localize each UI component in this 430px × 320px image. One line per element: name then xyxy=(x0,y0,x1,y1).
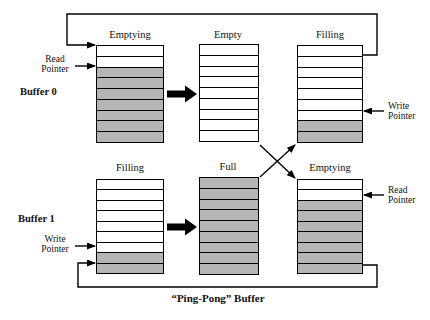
buffer-row xyxy=(97,263,163,273)
buffer-row xyxy=(298,56,362,67)
buffer-row xyxy=(200,66,258,77)
buffer-row xyxy=(200,87,258,98)
buffer-row xyxy=(298,77,362,88)
buffer-row xyxy=(97,120,163,131)
buffer-row xyxy=(298,221,362,231)
buffer-row xyxy=(298,110,362,121)
buffer-row xyxy=(298,210,362,220)
buffer-row xyxy=(298,263,362,273)
read-pointer-line2: Pointer xyxy=(36,65,74,75)
state-label-middle-bottom: Full xyxy=(220,161,237,173)
middle-bottom-full-buffer xyxy=(199,177,259,275)
buffer-row xyxy=(200,76,258,87)
buffer-row xyxy=(97,56,163,67)
buffer-row xyxy=(97,189,163,199)
buffer-row xyxy=(97,77,163,88)
buffer0-emptying-buffer xyxy=(96,45,164,143)
buffer-row xyxy=(200,220,258,231)
buffer-row xyxy=(97,210,163,220)
right-bottom-emptying-buffer xyxy=(297,179,363,274)
buffer-row xyxy=(298,88,362,99)
state-label-right-bottom: Emptying xyxy=(309,162,350,174)
buffer-row xyxy=(298,120,362,131)
buffer1-filling-buffer xyxy=(96,179,164,274)
buffer-row xyxy=(97,131,163,142)
diagram-title: “Ping-Pong” Buffer xyxy=(171,292,264,304)
write-pointer-line2: Pointer xyxy=(36,245,74,255)
buffer-row xyxy=(200,199,258,210)
buffer-row xyxy=(298,67,362,78)
buffer-row xyxy=(298,189,362,199)
buffer-row xyxy=(200,209,258,220)
buffer-row xyxy=(97,200,163,210)
buffer-row xyxy=(97,99,163,110)
flow-arrow-buffer0-to-empty xyxy=(167,86,197,103)
read-pointer-label-right-bottom: Read Pointer xyxy=(388,186,415,205)
buffer-row xyxy=(97,110,163,121)
buffer-row xyxy=(298,231,362,241)
buffer-row xyxy=(200,130,258,141)
buffer-row xyxy=(97,231,163,241)
buffer-row xyxy=(200,188,258,199)
buffer-row xyxy=(97,88,163,99)
buffer-row xyxy=(298,200,362,210)
state-label-right-top: Filling xyxy=(316,29,344,41)
buffer-row xyxy=(200,119,258,130)
buffer-row xyxy=(298,252,362,262)
buffer-row xyxy=(200,55,258,66)
write-pointer-label-right-top: Write Pointer xyxy=(388,102,415,121)
flow-arrow-buffer1-to-full xyxy=(167,219,197,236)
buffer-row xyxy=(97,67,163,78)
buffer-row xyxy=(97,252,163,262)
buffer-row xyxy=(298,242,362,252)
buffer-row xyxy=(97,180,163,189)
buffer-row xyxy=(97,46,163,56)
buffer-row xyxy=(200,252,258,263)
buffer-row xyxy=(200,231,258,242)
buffer-row xyxy=(298,131,362,142)
state-label-middle-top: Empty xyxy=(214,29,242,41)
read-pointer-label-buffer0: Read Pointer xyxy=(36,55,74,74)
buffer-row xyxy=(200,178,258,188)
buffer1-label: Buffer 1 xyxy=(18,213,55,224)
buffer-row xyxy=(200,242,258,253)
write-pointer-line2: Pointer xyxy=(388,112,415,122)
buffer-row xyxy=(200,98,258,109)
buffer-row xyxy=(298,46,362,56)
buffer-row xyxy=(200,109,258,120)
buffer-row xyxy=(200,263,258,274)
middle-top-empty-buffer xyxy=(199,44,259,142)
state-label-buffer0: Emptying xyxy=(109,29,150,41)
write-pointer-label-buffer1: Write Pointer xyxy=(36,235,74,254)
state-label-buffer1: Filling xyxy=(116,162,144,174)
buffer-row xyxy=(200,45,258,55)
buffer0-label: Buffer 0 xyxy=(20,86,57,97)
buffer-row xyxy=(298,180,362,189)
buffer-row xyxy=(298,99,362,110)
ping-pong-buffer-diagram: Emptying Empty Filling Filling Full Empt… xyxy=(0,0,430,320)
read-pointer-line2: Pointer xyxy=(388,196,415,206)
right-top-filling-buffer xyxy=(297,45,363,143)
buffer-row xyxy=(97,242,163,252)
buffer-row xyxy=(97,221,163,231)
